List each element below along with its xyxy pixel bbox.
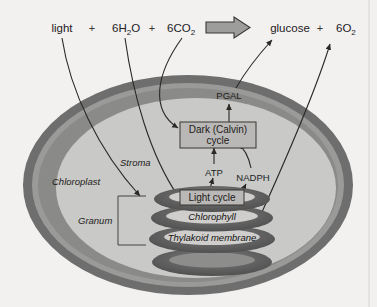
photosynthesis-diagram: Thylakoid membrane Chlorophyll Light cyc… — [0, 0, 377, 307]
o2-subscript: 2 — [351, 28, 356, 37]
chlorophyll-label: Chlorophyll — [188, 211, 236, 222]
granum-label: Granum — [78, 215, 112, 226]
equation-glucose-term: glucose — [270, 22, 310, 34]
thylakoid-disc-1: Light cycle — [154, 186, 270, 212]
chloroplast-label: Chloroplast — [52, 176, 100, 187]
calvin-cycle-label-line2: cycle — [207, 135, 230, 146]
light-cycle-label: Light cycle — [188, 192, 236, 203]
calvin-cycle-box: Dark (Calvin) cycle — [180, 122, 256, 148]
calvin-cycle-label-line1: Dark (Calvin) — [189, 124, 247, 135]
co2-main: 6CO — [167, 22, 191, 34]
atp-label: ATP — [205, 167, 223, 178]
equation-plus-1: + — [89, 22, 95, 34]
water-tail: O — [131, 22, 140, 34]
nadph-label: NADPH — [236, 172, 269, 183]
co2-subscript: 2 — [191, 28, 196, 37]
water-main: 6H — [112, 22, 127, 34]
equation-plus-3: + — [317, 22, 323, 34]
pgal-label: PGAL — [216, 90, 241, 101]
o2-main: 6O — [336, 22, 351, 34]
granum-stack: Thylakoid membrane Chlorophyll Light cyc… — [149, 186, 275, 276]
thylakoid-membrane-label: Thylakoid membrane — [168, 232, 257, 243]
equation-plus-2: + — [149, 22, 155, 34]
stroma-label: Stroma — [120, 157, 151, 168]
equation-light-term: light — [51, 22, 73, 34]
